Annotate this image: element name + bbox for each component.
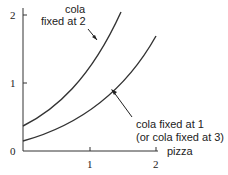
indifference-chart: 2 1 0 1 2 pizza cola fixed at 2 cola fix…: [0, 0, 228, 175]
lower-arrow: [113, 91, 132, 117]
upper-label-line1: cola: [65, 3, 86, 15]
x-tick-label-2: 2: [153, 158, 159, 170]
y-tick-label-2: 2: [10, 9, 16, 21]
x-axis-label: pizza: [167, 145, 194, 157]
upper-label-line2: fixed at 2: [41, 15, 86, 27]
upper-arrow-head-icon: [92, 35, 97, 40]
y-tick-label-0: 0: [10, 145, 16, 157]
x-tick-label-1: 1: [87, 158, 93, 170]
lower-label-line2: (or cola fixed at 3): [136, 131, 224, 143]
curve-cola-fixed-at-2: [23, 12, 121, 126]
y-tick-label-1: 1: [10, 77, 16, 89]
lower-label-line1: cola fixed at 1: [136, 118, 204, 130]
